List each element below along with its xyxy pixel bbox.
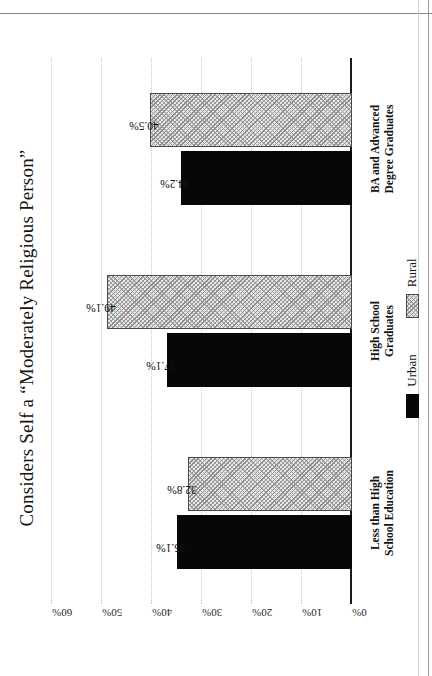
category-label-line: Graduates bbox=[382, 240, 396, 422]
bar-urban[interactable]: 35.1% bbox=[177, 515, 353, 569]
bar-value-label: 35.1% bbox=[156, 542, 186, 554]
bar-groups: 35.1%32.8%37.1%49.1%34.2%40.5% bbox=[52, 58, 352, 604]
bar-group: 37.1%49.1% bbox=[52, 240, 352, 422]
plot-area: 0%10%20%30%40%50%60% 35.1%32.8%37.1%49.1… bbox=[52, 58, 352, 604]
category-label-line: Less than High bbox=[368, 422, 382, 604]
legend-item-urban[interactable]: Urban bbox=[404, 354, 420, 418]
chart-legend: UrbanRural bbox=[404, 0, 420, 676]
value-axis-tick-label: 60% bbox=[52, 607, 72, 619]
bar-rural[interactable]: 32.8% bbox=[188, 457, 352, 511]
legend-label: Rural bbox=[404, 258, 420, 287]
chart-title: Considers Self a “Moderately Religious P… bbox=[16, 0, 38, 676]
category-label-line: BA and Advanced bbox=[368, 58, 382, 240]
value-axis-tick-label: 50% bbox=[102, 607, 122, 619]
page-frame: Considers Self a “Moderately Religious P… bbox=[0, 0, 432, 676]
solid-black-swatch bbox=[406, 394, 419, 418]
bar-value-label: 37.1% bbox=[146, 360, 176, 372]
value-axis-tick-label: 0% bbox=[352, 607, 367, 619]
bar-rural[interactable]: 49.1% bbox=[107, 275, 353, 329]
value-axis-tick-label: 30% bbox=[202, 607, 222, 619]
category-label-line: High School bbox=[368, 240, 382, 422]
category-label-line: School Education bbox=[382, 422, 396, 604]
bar-group: 35.1%32.8% bbox=[52, 422, 352, 604]
hatched-swatch bbox=[406, 294, 419, 318]
legend-label: Urban bbox=[404, 354, 420, 387]
value-axis-tick-label: 20% bbox=[252, 607, 272, 619]
bar-urban[interactable]: 34.2% bbox=[181, 151, 352, 205]
bar-rural[interactable]: 40.5% bbox=[150, 93, 353, 147]
category-label: BA and AdvancedDegree Graduates bbox=[368, 58, 397, 240]
bar-group: 34.2%40.5% bbox=[52, 58, 352, 240]
bar-urban[interactable]: 37.1% bbox=[167, 333, 353, 387]
category-label: High SchoolGraduates bbox=[368, 240, 397, 422]
value-axis-tick-label: 10% bbox=[302, 607, 322, 619]
value-axis-tick-label: 40% bbox=[152, 607, 172, 619]
category-axis-labels: Less than HighSchool EducationHigh Schoo… bbox=[368, 58, 397, 604]
category-label-line: Degree Graduates bbox=[382, 58, 396, 240]
bar-value-label: 32.8% bbox=[167, 484, 197, 496]
bar-value-label: 34.2% bbox=[160, 178, 190, 190]
bar-value-label: 40.5% bbox=[129, 120, 159, 132]
bar-value-label: 49.1% bbox=[86, 302, 116, 314]
category-label: Less than HighSchool Education bbox=[368, 422, 397, 604]
chart-figure: Considers Self a “Moderately Religious P… bbox=[0, 0, 432, 676]
legend-item-rural[interactable]: Rural bbox=[404, 258, 420, 318]
